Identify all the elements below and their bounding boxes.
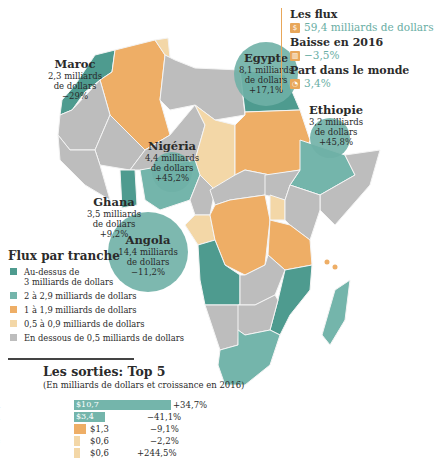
legend-item: 2 à 2,9 milliards de dollars [8,291,184,301]
part-label: Part dans le monde [290,64,434,77]
region-uganda [270,195,285,220]
stats-panel: Les flux $59,4 milliards de dollars Bais… [281,8,434,92]
swatch-icon [10,320,17,327]
dollar-icon: $ [290,23,300,33]
legend-title: Flux par tranche [8,249,184,263]
bar [74,424,86,434]
legend-item: En dessous de 0,5 milliards de dollars [8,333,184,343]
top5-title: Les sorties: Top 5 [43,364,166,379]
top5-subtitle: (En milliards de dollars et croissance e… [43,380,244,390]
flux-value: 59,4 milliards de dollars [304,21,434,34]
chart-down-icon: ▥ [290,51,300,61]
swatch-icon [10,268,17,275]
bar: $10,7 [74,400,171,410]
region-sudan [235,110,310,175]
region-namibia [205,305,240,350]
label-maroc: Maroc 2,3 milliards de dollars −29% [40,58,110,101]
legend-item: Au-dessus de3 milliards de dollars [8,267,184,287]
legend-item: 0,5 à 0,9 milliards de dollars [8,319,184,329]
region-madagascar [322,280,350,345]
bar: $3,4 [74,412,105,422]
swatch-icon [10,334,17,341]
divider [8,358,134,360]
swatch-icon [10,292,17,299]
flux-label: Les flux [290,8,434,21]
legend-item: 1 à 1,9 milliards de dollars [8,305,184,315]
bar [74,448,80,458]
label-nigeria: Nigéria 4,4 milliards de dollars +45,2% [138,140,206,183]
bar [74,436,80,446]
baisse-label: Baisse en 2016 [290,36,434,49]
legend: Flux par tranche Au-dessus de3 milliards… [8,249,184,347]
label-ethiopie: Ethiopie 3,2 milliards de dollars +45,8% [300,104,372,147]
baisse-value: −3,5% [304,49,339,62]
swatch-icon [10,306,17,313]
part-value: 3,4% [304,77,331,90]
pie-icon: ◔ [290,79,300,89]
